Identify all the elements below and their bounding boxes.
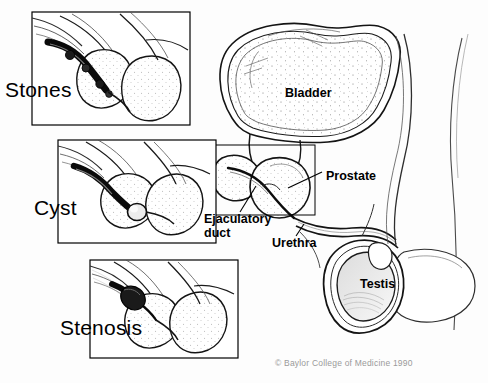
inset-label-stenosis: Stenosis	[60, 316, 142, 340]
stone-3	[96, 80, 104, 88]
anatomy-label-prostate: Prostate	[326, 169, 376, 183]
ejaculatory-duct-line-1: Ejaculatory	[204, 212, 271, 226]
stone-2	[82, 64, 90, 72]
prostate-gland	[250, 158, 310, 218]
inset-panel-stenosis	[90, 260, 238, 358]
epididymis	[369, 243, 392, 270]
inset-label-cyst: Cyst	[34, 196, 77, 220]
stone-1	[65, 50, 74, 59]
inset-label-stones: Stones	[5, 78, 72, 102]
copyright-credit: © Baylor College of Medicine 1990	[275, 358, 413, 368]
inset-panel-cyst	[58, 140, 216, 243]
anatomy-label-urethra: Urethra	[272, 236, 316, 250]
inset-panel-stones	[32, 12, 190, 125]
anatomy-label-bladder: Bladder	[285, 86, 332, 100]
ejaculatory-duct-line-2: duct	[204, 226, 230, 240]
anatomy-label-testis: Testis	[360, 277, 395, 291]
cyst-lesion	[128, 204, 147, 221]
spermatic-cord	[362, 204, 374, 236]
illustration-canvas: Stones Cyst Stenosis Bladder Prostate Ej…	[0, 0, 488, 383]
